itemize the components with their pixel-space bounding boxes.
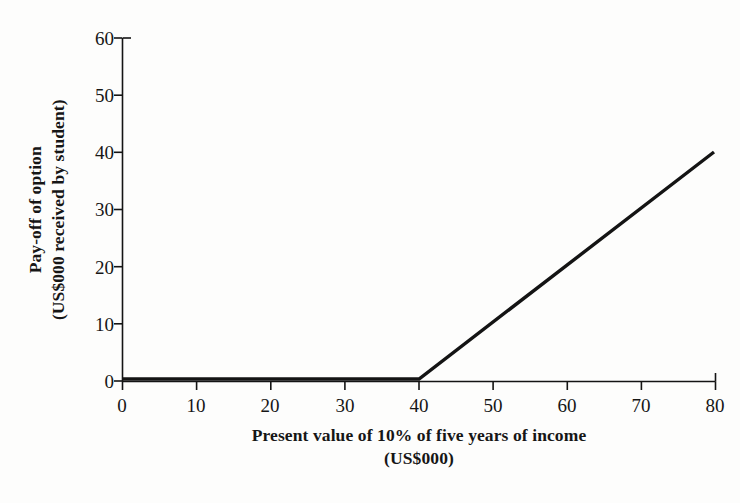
y-axis-ticks [114, 38, 122, 381]
chart-figure: Pay-off of option (US$000 received by st… [0, 0, 740, 503]
axis-spines [122, 38, 716, 382]
x-axis-label-line2: (US$000) [122, 447, 716, 470]
x-axis-ticks [123, 382, 716, 391]
x-axis-label: Present value of 10% of five years of in… [122, 424, 716, 470]
payoff-line [122, 152, 714, 379]
x-axis-label-line1: Present value of 10% of five years of in… [122, 424, 716, 447]
